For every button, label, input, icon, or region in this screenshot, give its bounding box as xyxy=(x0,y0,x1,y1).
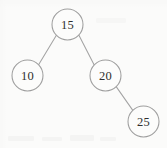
node-label-left-child: 10 xyxy=(21,69,34,83)
tree-node-grandchild[interactable]: 25 xyxy=(128,106,159,137)
edge-right-child-to-grandchild xyxy=(116,86,133,110)
binary-tree-figure: 15 10 20 25 xyxy=(0,0,167,148)
edge-root-to-right-child xyxy=(79,35,94,65)
tree-node-left-child[interactable]: 10 xyxy=(12,60,43,91)
node-label-grandchild: 25 xyxy=(137,115,150,129)
node-label-right-child: 20 xyxy=(99,69,112,83)
tree-diagram-canvas: 15 10 20 25 xyxy=(0,0,167,148)
edge-root-to-left-child xyxy=(39,35,57,64)
tree-node-right-child[interactable]: 20 xyxy=(90,60,121,91)
tree-node-root[interactable]: 15 xyxy=(52,9,83,40)
node-label-root: 15 xyxy=(61,18,74,32)
